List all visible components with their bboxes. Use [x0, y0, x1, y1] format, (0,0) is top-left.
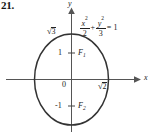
- ellipse-equation: x2 2 + y2 3 = 1: [80, 18, 119, 38]
- focus-subscript: 1: [83, 52, 86, 58]
- equals-operator: =: [107, 24, 112, 32]
- exponent-x: 2: [85, 15, 88, 21]
- equation-rhs: 1: [114, 24, 118, 32]
- exponent-y: 2: [101, 15, 104, 21]
- origin-label: 0: [62, 81, 66, 89]
- fraction-numerator: x2: [81, 18, 89, 28]
- fraction-denominator: 3: [96, 28, 106, 38]
- y-vertex-label: √3: [47, 27, 56, 36]
- y-axis-label: y: [68, 0, 72, 8]
- tick-label-one: 1: [58, 49, 62, 57]
- coordinate-plot: [0, 0, 154, 137]
- radicand-value: 3: [51, 27, 56, 36]
- radicand-value: 2: [102, 82, 107, 91]
- focus-label-f2: F2: [78, 102, 86, 110]
- x-axis-arrow: [134, 76, 141, 83]
- focus-subscript: 2: [83, 105, 86, 111]
- y-axis-arrow: [68, 8, 75, 15]
- x-vertex-label: √2: [98, 82, 107, 91]
- focus-label-f1: F1: [78, 49, 86, 57]
- fraction-x-term: x2 2: [81, 18, 89, 38]
- x-axis-label: x: [144, 74, 148, 82]
- fraction-denominator: 2: [80, 28, 90, 38]
- fraction-y-term: y2 3: [97, 18, 105, 38]
- tick-label-negative-one: -1: [55, 102, 62, 110]
- plus-operator: +: [91, 24, 96, 32]
- fraction-numerator: y2: [97, 18, 105, 28]
- figure-container: 21. y x 0 √3 √2 1 F1 -1 F2: [0, 0, 154, 137]
